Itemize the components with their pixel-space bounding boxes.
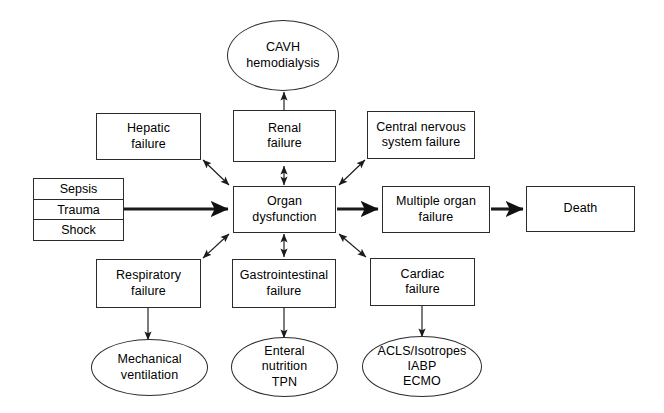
edge-organ-cns — [339, 160, 365, 185]
node-death: Death — [526, 186, 635, 232]
node-mechanical-ventilation: Mechanical ventilation — [91, 339, 208, 396]
stack-row-label: Sepsis — [60, 182, 98, 196]
node-hepatic-failure: Hepatic failure — [96, 113, 201, 160]
node-label: Cardiac failure — [401, 267, 445, 298]
node-respiratory-failure: Respiratory failure — [96, 259, 201, 308]
node-organ-dysfunction: Organ dysfunction — [233, 186, 336, 233]
node-label: Organ dysfunction — [252, 194, 316, 225]
node-label: Mechanical ventilation — [117, 352, 181, 383]
node-label: CAVH hemodialysis — [246, 40, 319, 71]
stack-row-label: Shock — [61, 223, 96, 237]
node-label: Gastrointestinal failure — [240, 268, 328, 299]
organ-dysfunction-flowchart: Sepsis Trauma Shock Organ dysfunction He… — [0, 0, 664, 413]
node-label: Renal failure — [267, 121, 302, 152]
node-label: Central nervous system failure — [376, 120, 466, 151]
stack-row-shock: Shock — [34, 220, 123, 240]
node-label: Enteral nutrition TPN — [262, 344, 307, 390]
node-cardiac-failure: Cardiac failure — [370, 258, 475, 306]
edge-organ-cardiac — [339, 234, 366, 257]
node-label: Respiratory failure — [116, 268, 181, 299]
edge-organ-hepatic — [203, 160, 229, 185]
node-cns-failure: Central nervous system failure — [367, 111, 475, 159]
node-label: Death — [564, 201, 598, 216]
node-multiple-organ-failure: Multiple organ failure — [382, 186, 490, 233]
node-gastrointestinal-failure: Gastrointestinal failure — [232, 259, 336, 308]
node-label: Multiple organ failure — [396, 194, 476, 225]
node-cavh-hemodialysis: CAVH hemodialysis — [227, 20, 339, 91]
edge-organ-respiratory — [203, 234, 229, 258]
node-enteral-nutrition: Enteral nutrition TPN — [231, 337, 338, 397]
stack-row-trauma: Trauma — [34, 200, 123, 221]
node-acls-iabp-ecmo: ACLS/Isotropes IABP ECMO — [362, 336, 482, 397]
precipitating-factors-stack: Sepsis Trauma Shock — [33, 178, 124, 241]
stack-row-sepsis: Sepsis — [34, 179, 123, 200]
node-label: Hepatic failure — [127, 121, 170, 152]
node-renal-failure: Renal failure — [233, 110, 336, 162]
node-label: ACLS/Isotropes IABP ECMO — [378, 344, 467, 390]
stack-row-label: Trauma — [57, 203, 100, 217]
